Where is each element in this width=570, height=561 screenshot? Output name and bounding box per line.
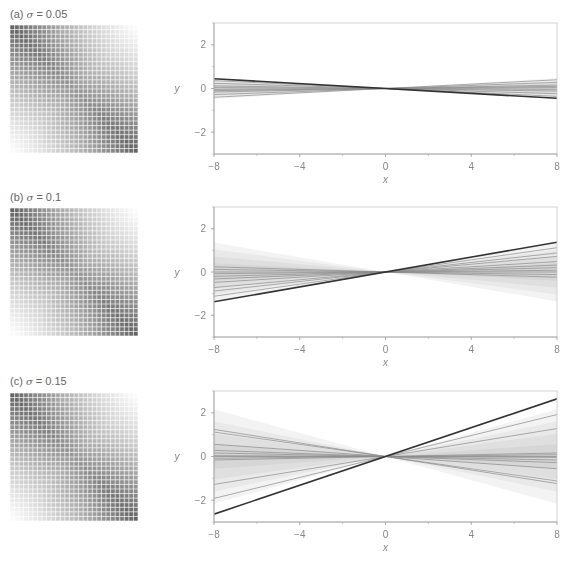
x-tick-label: −4 <box>294 529 306 540</box>
y-tick-label: 0 <box>200 267 206 278</box>
plot-area <box>214 242 557 302</box>
plot-area <box>214 78 557 99</box>
x-tick-label: −4 <box>294 161 306 172</box>
x-tick-label: 0 <box>383 161 389 172</box>
x-axis-label: x <box>382 174 389 185</box>
x-tick-label: −8 <box>208 529 220 540</box>
y-axis-label: y <box>174 451 181 462</box>
x-tick-label: 8 <box>554 161 560 172</box>
x-tick-label: 8 <box>554 344 560 355</box>
x-axis-label: x <box>382 542 389 553</box>
y-tick-label: −2 <box>195 127 207 138</box>
x-axis-label: x <box>382 357 389 368</box>
x-tick-label: 0 <box>383 344 389 355</box>
x-tick-label: −8 <box>208 161 220 172</box>
y-tick-label: 2 <box>200 39 206 50</box>
y-axis-label: y <box>174 83 181 94</box>
y-axis-label: y <box>174 267 181 278</box>
x-tick-label: −8 <box>208 344 220 355</box>
x-tick-label: 4 <box>468 344 474 355</box>
x-tick-label: 4 <box>468 161 474 172</box>
y-tick-label: 0 <box>200 83 206 94</box>
x-tick-label: 8 <box>554 529 560 540</box>
line-plots: −8−4048−202xy−8−4048−202xy−8−4048−202xy <box>0 0 570 561</box>
y-tick-label: −2 <box>195 310 207 321</box>
x-tick-label: −4 <box>294 344 306 355</box>
y-tick-label: 0 <box>200 451 206 462</box>
y-tick-label: 2 <box>200 407 206 418</box>
x-tick-label: 0 <box>383 529 389 540</box>
x-tick-label: 4 <box>468 529 474 540</box>
plot-area <box>214 399 557 514</box>
y-tick-label: −2 <box>195 495 207 506</box>
y-tick-label: 2 <box>200 223 206 234</box>
